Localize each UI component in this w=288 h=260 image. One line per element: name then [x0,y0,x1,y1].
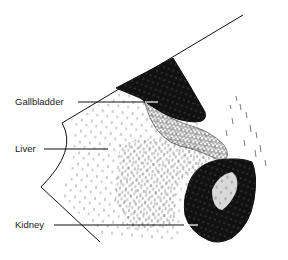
scatter-echoes [226,96,266,166]
kidney-label: Kidney [15,220,44,230]
gallbladder-label: Gallbladder [15,97,64,107]
liver-label: Liver [15,144,36,154]
